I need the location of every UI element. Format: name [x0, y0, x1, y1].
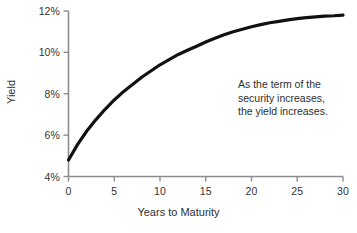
y-tick-label: 10%	[16, 46, 60, 58]
annotation-line-3: the yield increases.	[238, 105, 354, 119]
annotation-line-1: As the term of the	[238, 78, 354, 92]
x-tick-label: 10	[154, 185, 166, 197]
x-tick-label: 5	[111, 185, 117, 197]
yield-curve-chart: 4%6%8%10%12% 051015202530 Yield Years to…	[0, 0, 357, 233]
x-tick-label: 0	[66, 185, 72, 197]
x-tick-label: 20	[246, 185, 258, 197]
y-tick-label: 8%	[16, 88, 60, 100]
y-tick-label: 12%	[16, 5, 60, 17]
x-axis-title: Years to Maturity	[0, 206, 357, 218]
x-tick-label: 15	[200, 185, 212, 197]
x-tick-label: 25	[291, 185, 303, 197]
x-tick-label: 30	[337, 185, 349, 197]
y-tick-label: 4%	[16, 171, 60, 183]
y-tick-label: 6%	[16, 129, 60, 141]
y-axis-title: Yield	[5, 67, 17, 117]
curve-annotation: As the term of the security increases, t…	[238, 78, 354, 119]
annotation-line-2: security increases,	[238, 92, 354, 106]
